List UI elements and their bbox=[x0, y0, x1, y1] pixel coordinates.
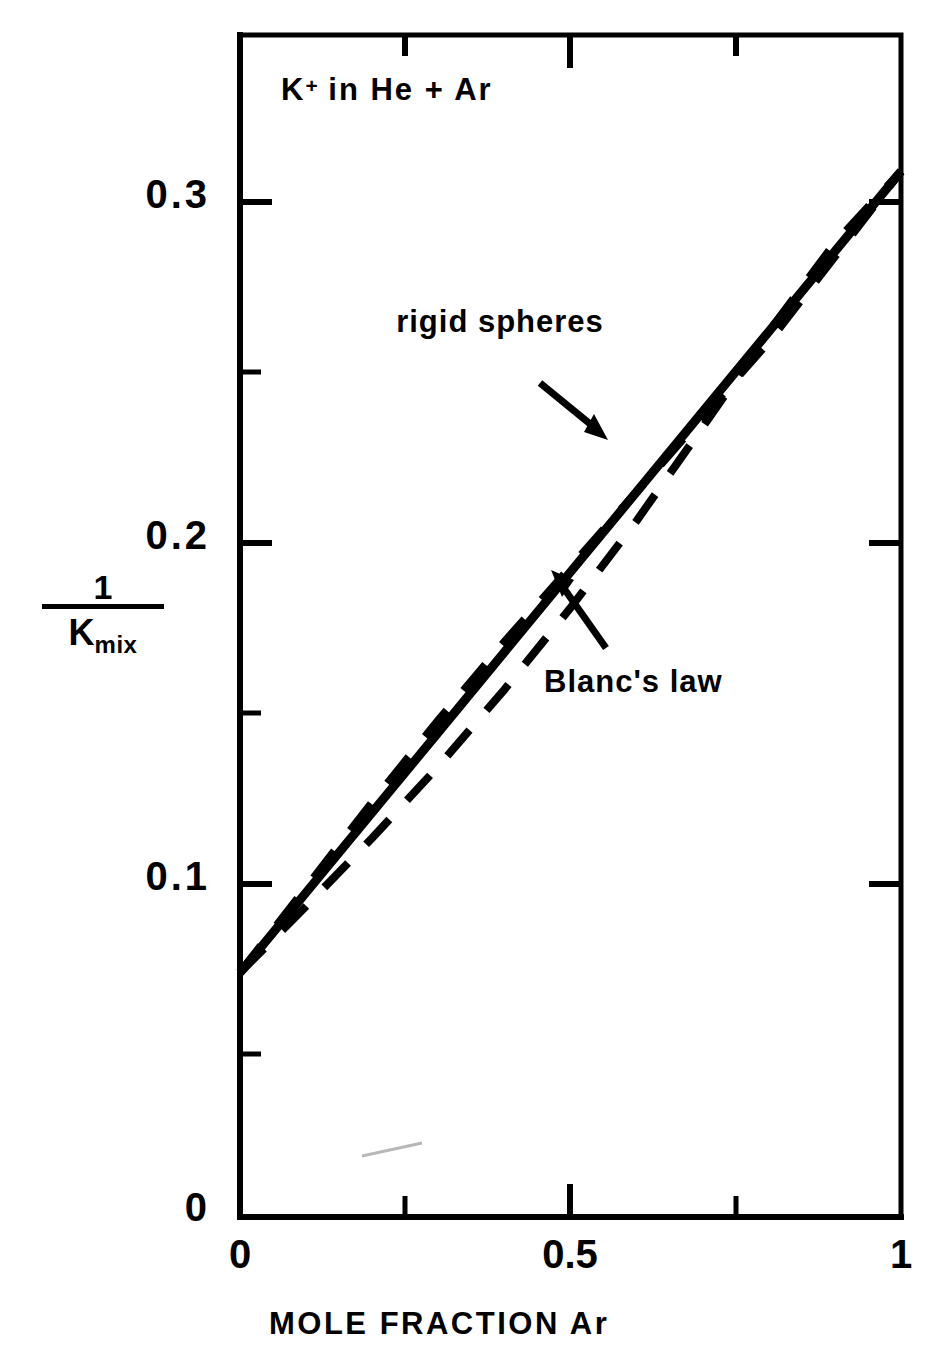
annotation-rigid-spheres: rigid spheres bbox=[395, 300, 605, 344]
plot-title-base: K bbox=[281, 72, 305, 107]
y-axis-denominator-subscript: mix bbox=[95, 631, 138, 658]
plot-title-rest: in He + Ar bbox=[318, 72, 493, 107]
x-tick-label-0: 0 bbox=[200, 1232, 280, 1277]
scan-artifact bbox=[362, 1143, 422, 1156]
y-axis-title: 1 Kmix bbox=[28, 572, 178, 667]
arrow-rigid-spheres bbox=[540, 383, 608, 440]
x-axis-title: MOLE FRACTION Ar bbox=[269, 1306, 609, 1342]
arrow-blancs-law bbox=[551, 570, 606, 648]
y-tick-label-0.1: 0.1 bbox=[90, 854, 210, 899]
y-axis-denominator: Kmix bbox=[28, 609, 178, 667]
curve-rigid-spheres bbox=[240, 901, 504, 1225]
plot-title-superscript: + bbox=[305, 74, 317, 97]
x-tick-label-1: 1 bbox=[861, 1232, 927, 1277]
y-axis-numerator: 1 bbox=[28, 572, 178, 604]
y-axis-denominator-base: K bbox=[69, 612, 95, 653]
curve-blancs-law bbox=[240, 171, 901, 972]
x-tick-label-0.5: 0.5 bbox=[530, 1232, 610, 1277]
y-tick-label-0: 0 bbox=[90, 1185, 210, 1230]
y-tick-label-0.2: 0.2 bbox=[90, 513, 210, 558]
annotation-blancs-law: Blanc's law bbox=[544, 660, 723, 704]
y-major-ticks bbox=[240, 202, 272, 884]
plot-title: K+ in He + Ar bbox=[281, 72, 493, 108]
y-tick-label-0.3: 0.3 bbox=[90, 172, 210, 217]
axis-frame bbox=[240, 35, 901, 1217]
figure-container: K+ in He + Ar 0.3 0.2 0.1 0 0 0.5 1 1 Km… bbox=[0, 0, 927, 1363]
right-ticks bbox=[869, 202, 901, 884]
top-ticks bbox=[405, 35, 736, 68]
